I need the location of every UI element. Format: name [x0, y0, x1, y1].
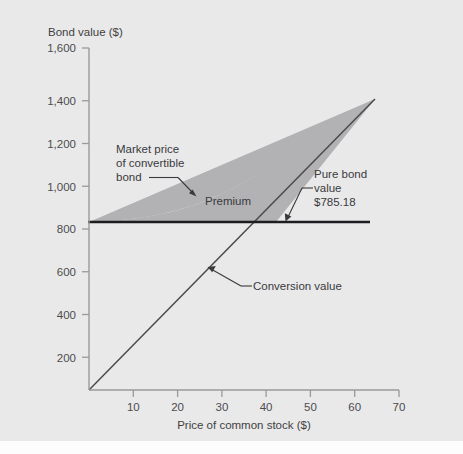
pure-bond-label-line1: Pure bond [314, 168, 367, 180]
x-tick-label-10: 10 [127, 401, 140, 413]
conversion-value-leader-line [211, 269, 241, 286]
x-tick-label-20: 20 [171, 401, 184, 413]
y-tick-label-1000: 1,000 [47, 181, 76, 193]
market-price-label-line2: of convertible [116, 157, 184, 169]
pure-bond-label-line2: value [314, 182, 342, 194]
y-tick-label-1200: 1,200 [47, 138, 76, 150]
x-tick-label-40: 40 [260, 401, 273, 413]
premium-label: Premium [205, 195, 251, 207]
y-tick-label-800: 800 [57, 223, 76, 235]
x-tick-label-50: 50 [304, 401, 317, 413]
y-tick-label-200: 200 [57, 352, 76, 364]
pure-bond-arrowhead [285, 213, 292, 221]
y-tick-label-400: 400 [57, 309, 76, 321]
y-tick-label-1600: 1,600 [47, 42, 76, 54]
y-tick-label-1400: 1,400 [47, 95, 76, 107]
market-price-label-line3: bond [116, 171, 142, 183]
market-price-label-line1: Market price [116, 143, 179, 155]
x-tick-label-60: 60 [348, 401, 361, 413]
x-tick-label-70: 70 [393, 401, 406, 413]
bottom-white-margin [0, 441, 463, 454]
conversion-value-label: Conversion value [253, 280, 342, 292]
chart-figure: 1,600 1,400 1,200 1,000 800 600 400 200 … [0, 0, 463, 441]
pure-bond-label-line3: $785.18 [314, 196, 356, 208]
convertible-bond-chart: 1,600 1,400 1,200 1,000 800 600 400 200 … [0, 0, 463, 441]
x-axis-title: Price of common stock ($) [177, 419, 311, 431]
y-axis-title: Bond value ($) [48, 26, 123, 38]
x-tick-label-30: 30 [216, 401, 229, 413]
y-tick-label-600: 600 [57, 266, 76, 278]
